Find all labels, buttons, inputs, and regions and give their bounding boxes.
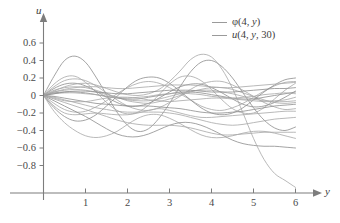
x-tick-label: 6 <box>286 198 306 209</box>
x-tick-label: 2 <box>118 198 138 209</box>
legend-swatch-u <box>212 35 227 36</box>
tick-marks <box>40 43 296 193</box>
y-tick-label: 0 <box>2 91 36 102</box>
legend-label-u: u(4, y, 30) <box>232 30 275 41</box>
x-tick-label: 1 <box>76 198 96 209</box>
y-axis-title: u <box>36 5 42 16</box>
legend-swatch-phi <box>212 22 227 23</box>
legend-item-u[interactable]: u(4, y, 30) <box>212 29 322 41</box>
y-tick-label: −0.6 <box>2 143 36 154</box>
chart-figure: 0.60.40.20−0.2−0.4−0.6−0.8 123456 u y φ(… <box>0 0 340 223</box>
legend: φ(4, y) u(4, y, 30) <box>212 16 322 42</box>
y-tick-label: 0.4 <box>2 56 36 67</box>
curve-line <box>44 93 296 98</box>
y-tick-label: 0.6 <box>2 38 36 49</box>
curve-lines <box>44 54 296 187</box>
legend-label-phi: φ(4, y) <box>232 17 260 28</box>
x-tick-label: 5 <box>244 198 264 209</box>
legend-item-phi[interactable]: φ(4, y) <box>212 16 322 28</box>
y-tick-label: −0.4 <box>2 126 36 137</box>
x-axis-arrow <box>313 189 322 196</box>
x-tick-label: 4 <box>202 198 222 209</box>
x-tick-label: 3 <box>160 198 180 209</box>
y-tick-label: −0.2 <box>2 108 36 119</box>
y-tick-label: −0.8 <box>2 161 36 172</box>
x-axis-title: y <box>325 186 330 197</box>
y-tick-label: 0.2 <box>2 73 36 84</box>
